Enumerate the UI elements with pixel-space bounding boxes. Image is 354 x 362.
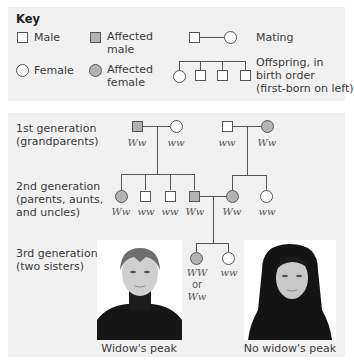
gen2-drop-1 xyxy=(121,174,122,190)
gen3-sister-1-icon xyxy=(190,252,203,265)
gen1-genotype-3: ww xyxy=(218,137,235,149)
gen2-genotype-1: Ww xyxy=(112,206,131,218)
gen2-aunt-right-icon xyxy=(260,190,273,203)
key-label-affected-male-2: male xyxy=(107,43,134,56)
key-label-male: Male xyxy=(34,31,60,44)
gen1-label-1: 1st generation xyxy=(16,122,96,135)
key-label-affected-female-2: female xyxy=(107,76,145,89)
gen2-genotype-3: ww xyxy=(161,206,178,218)
gen2-label-3: and uncles) xyxy=(16,206,80,219)
male-symbol-icon xyxy=(17,32,28,43)
female-symbol-icon xyxy=(16,64,29,77)
gen1-genotype-1: Ww xyxy=(128,137,147,149)
offspring-male-icon xyxy=(217,70,228,81)
gen3-label-2: (two sisters) xyxy=(16,260,84,273)
gen2-genotype-6: ww xyxy=(258,206,275,218)
gen3-genotype-1c: Ww xyxy=(188,291,207,303)
gen2-descent-line xyxy=(213,196,214,243)
sibship-drop-2 xyxy=(200,61,201,70)
gen2-left-sibship-line xyxy=(121,174,195,175)
gen3-sister-2-icon xyxy=(222,252,235,265)
affected-female-symbol-icon xyxy=(89,64,102,77)
photo-widows-peak xyxy=(97,240,182,340)
key-label-offspring-2: birth order xyxy=(256,69,315,82)
offspring-male-icon xyxy=(240,70,251,81)
gen2-uncle-1-icon xyxy=(140,191,151,202)
key-label-affected-male-1: Affected xyxy=(107,30,153,43)
gen3-sibship-line xyxy=(196,243,229,244)
offspring-female-icon xyxy=(173,70,186,83)
woman-portrait-icon xyxy=(244,240,336,340)
gen2-genotype-2: ww xyxy=(137,206,154,218)
gen2-label-1: 2nd generation xyxy=(16,180,100,193)
mating-line xyxy=(200,37,224,38)
sibship-line xyxy=(179,61,245,62)
mating-male-icon xyxy=(189,32,200,43)
offspring-male-icon xyxy=(195,70,206,81)
woman-portrait-icon xyxy=(97,240,182,340)
gen2-drop-6 xyxy=(266,175,267,190)
gen1-right-descent-line xyxy=(247,126,248,175)
key-label-female: Female xyxy=(34,64,74,77)
gen2-right-sibship-line xyxy=(232,175,267,176)
gen2-drop-4 xyxy=(194,174,195,190)
affected-male-symbol-icon xyxy=(90,32,101,43)
gen2-genotype-5: Ww xyxy=(223,206,242,218)
sibship-drop-3 xyxy=(222,61,223,70)
gen2-drop-2 xyxy=(145,174,146,190)
gen1-left-descent-line xyxy=(157,126,158,174)
gen2-aunt-icon xyxy=(115,190,128,203)
gen3-label-1: 3rd generation xyxy=(16,247,98,260)
mating-female-icon xyxy=(224,31,237,44)
key-label-offspring-1: Offspring, in xyxy=(256,56,324,69)
photo-no-widows-peak xyxy=(244,240,336,340)
gen1-grandmother-left-icon xyxy=(170,120,183,133)
gen2-uncle-2-icon xyxy=(165,191,176,202)
gen2-drop-5 xyxy=(232,175,233,190)
caption-widows-peak: Widow's peak xyxy=(101,342,177,355)
gen2-father-icon xyxy=(189,191,200,202)
key-label-affected-female-1: Affected xyxy=(107,63,153,76)
gen2-drop-3 xyxy=(170,174,171,190)
gen3-genotype-2: ww xyxy=(220,267,237,279)
gen3-drop-1 xyxy=(196,243,197,252)
gen1-grandfather-right-icon xyxy=(222,121,233,132)
gen3-drop-2 xyxy=(228,243,229,252)
key-label-offspring-3: (first-born on left) xyxy=(256,82,354,95)
gen1-grandfather-left-icon xyxy=(132,121,143,132)
gen1-label-2: (grandparents) xyxy=(16,135,99,148)
gen3-genotype-1a: WW xyxy=(187,267,208,279)
gen1-grandmother-right-icon xyxy=(261,120,274,133)
key-label-mating: Mating xyxy=(256,31,294,44)
gen1-genotype-4: Ww xyxy=(258,137,277,149)
gen2-genotype-4: Ww xyxy=(186,206,205,218)
gen2-mother-icon xyxy=(226,190,239,203)
caption-no-widows-peak: No widow's peak xyxy=(244,342,336,355)
gen1-genotype-2: ww xyxy=(167,137,184,149)
sibship-drop-4 xyxy=(245,61,246,70)
key-title: Key xyxy=(16,13,40,26)
gen3-genotype-1b: or xyxy=(192,279,202,291)
sibship-drop-1 xyxy=(179,61,180,70)
gen2-label-2: (parents, aunts, xyxy=(16,193,103,206)
